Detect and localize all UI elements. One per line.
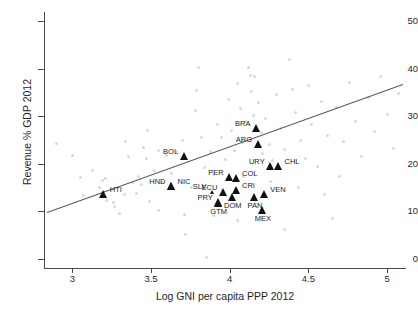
- background-scatter-point: [142, 146, 145, 149]
- country-label-cri: CRI: [242, 182, 255, 190]
- background-scatter-point: [294, 111, 297, 114]
- country-label-chl: CHL: [285, 158, 300, 166]
- country-marker-hti: [99, 190, 107, 198]
- y-tick-mark: [38, 164, 44, 165]
- country-marker-ven: [260, 190, 268, 198]
- background-scatter-point: [331, 217, 334, 220]
- background-scatter-point: [291, 88, 294, 91]
- background-scatter-point: [354, 120, 357, 123]
- background-scatter-point: [261, 152, 264, 155]
- background-scatter-point: [91, 169, 94, 172]
- background-scatter-point: [212, 173, 215, 176]
- background-scatter-point: [216, 123, 219, 126]
- background-scatter-point: [145, 157, 148, 160]
- country-label-ecu: ECU: [202, 184, 218, 192]
- y-tick-mark: [38, 211, 44, 212]
- background-scatter-point: [183, 213, 186, 216]
- country-label-arg: ARG: [236, 136, 252, 144]
- background-scatter-point: [203, 166, 206, 169]
- background-scatter-point: [170, 172, 173, 175]
- background-scatter-point: [118, 212, 121, 215]
- background-scatter-point: [224, 158, 227, 161]
- country-marker-gtm: [214, 199, 222, 207]
- background-scatter-point: [220, 136, 223, 139]
- background-scatter-point: [279, 127, 282, 130]
- background-scatter-point: [283, 148, 286, 151]
- background-scatter-point: [297, 186, 300, 189]
- background-scatter-point: [348, 81, 351, 84]
- background-scatter-point: [271, 159, 274, 162]
- background-scatter-point: [241, 141, 244, 144]
- background-scatter-point: [275, 93, 278, 96]
- background-scatter-point: [146, 129, 149, 132]
- y-tick-label: 50: [384, 16, 418, 26]
- country-marker-bol: [180, 152, 188, 160]
- country-label-slv: SLV: [193, 183, 207, 191]
- background-scatter-point: [326, 134, 329, 137]
- y-tick-label: 0: [384, 254, 418, 264]
- background-scatter-point: [137, 175, 140, 178]
- country-marker-hnd: [167, 182, 175, 190]
- background-scatter-point: [299, 139, 302, 142]
- background-scatter-point: [190, 186, 193, 189]
- background-scatter-point: [230, 129, 233, 132]
- background-scatter-point: [148, 200, 151, 203]
- background-scatter-point: [268, 143, 271, 146]
- background-scatter-point: [233, 149, 236, 152]
- background-scatter-point: [257, 101, 260, 104]
- plot-area: HTIBOLHNDNICSLVPRYGTMECUPERCOLCRIDOMBRAA…: [0, 0, 418, 313]
- background-scatter-point: [253, 75, 256, 78]
- country-label-per: PER: [208, 169, 223, 177]
- background-scatter-point: [55, 142, 58, 145]
- background-scatter-point: [200, 136, 203, 139]
- y-axis-title: Revenue % GDP 2012: [21, 32, 33, 232]
- background-scatter-point: [373, 130, 376, 133]
- country-marker-ury: [266, 162, 274, 170]
- country-label-dom: DOM: [224, 202, 242, 210]
- y-tick-label: 40: [384, 64, 418, 74]
- background-scatter-point: [307, 84, 310, 87]
- background-scatter-point: [360, 155, 363, 158]
- background-scatter-point: [165, 154, 168, 157]
- background-scatter-point: [157, 209, 160, 212]
- background-scatter-point: [101, 179, 104, 182]
- background-scatter-point: [205, 256, 208, 259]
- background-scatter-point: [338, 175, 341, 178]
- background-scatter-point: [320, 100, 323, 103]
- background-scatter-point: [335, 106, 338, 109]
- y-tick-mark: [38, 259, 44, 260]
- country-marker-cri: [232, 186, 240, 194]
- country-marker-per: [225, 173, 233, 181]
- country-label-ven: VEN: [270, 186, 285, 194]
- country-marker-pry: [214, 198, 222, 206]
- background-scatter-point: [105, 199, 108, 202]
- country-marker-arg: [254, 140, 262, 148]
- y-axis-line: [44, 12, 45, 269]
- country-marker-nic: [167, 182, 175, 190]
- background-scatter-point: [71, 154, 74, 157]
- country-label-nic: NIC: [177, 178, 190, 186]
- background-scatter-point: [195, 89, 198, 92]
- background-scatter-point: [123, 193, 126, 196]
- x-tick-label: 4: [210, 274, 250, 284]
- background-scatter-point: [264, 117, 267, 120]
- background-scatter-point: [227, 98, 230, 101]
- background-scatter-point: [124, 140, 127, 143]
- background-scatter-point: [212, 214, 215, 217]
- background-scatter-point: [244, 120, 247, 123]
- x-tick-label: 3.5: [131, 274, 171, 284]
- country-marker-dom: [228, 193, 236, 201]
- y-tick-mark: [38, 116, 44, 117]
- x-tick-label: 4.5: [288, 274, 328, 284]
- country-label-bra: BRA: [235, 120, 250, 128]
- background-scatter-point: [252, 114, 255, 117]
- y-tick-label: 30: [384, 111, 418, 121]
- background-scatter-point: [288, 58, 291, 61]
- background-scatter-point: [135, 192, 138, 195]
- background-scatter-point: [250, 90, 253, 93]
- background-scatter-point: [98, 186, 101, 189]
- background-scatter-point: [184, 233, 187, 236]
- background-scatter-point: [304, 157, 307, 160]
- background-scatter-point: [209, 150, 212, 153]
- background-scatter-point: [197, 66, 200, 69]
